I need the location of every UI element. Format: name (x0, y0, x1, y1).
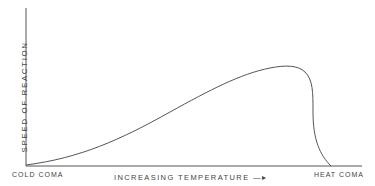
chart-plot (0, 0, 375, 186)
y-axis-label: SPEED OF REACTION (20, 43, 29, 153)
reaction-curve (26, 66, 331, 166)
x-axis-label: INCREASING TEMPERATURE —▸ (114, 173, 267, 182)
heat-coma-label: HEAT COMA (314, 171, 364, 178)
cold-coma-label: COLD COMA (12, 171, 63, 178)
